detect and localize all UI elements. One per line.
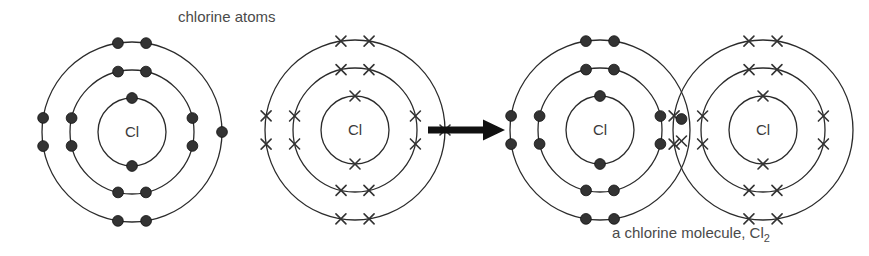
molecule-atom-right: Cl [669,36,853,224]
atom-right: Cl [261,36,450,224]
molecule-caption: a chlorine molecule, Cl2 [612,224,770,244]
nucleus-symbol: Cl [593,121,607,138]
electron-shell3-unpaired [217,127,228,138]
electron-shell2-6 [744,185,754,195]
electron-shell3-4 [581,213,592,224]
nucleus-symbol: Cl [125,123,139,140]
electron-shell2-1 [113,66,124,77]
electron-shell2-2 [609,64,620,75]
reaction-arrow [428,120,505,141]
electron-shell2-8 [698,111,708,121]
electron-shell2-6 [113,187,124,198]
electron-shell3-5 [38,141,49,152]
electron-shell3-1 [581,36,592,47]
molecule-caption-text: a chlorine molecule, Cl [612,224,764,241]
electron-shell2-5 [364,185,374,195]
electron-shell2-2 [141,66,152,77]
atom-left: Cl [38,38,228,227]
electron-shell3-3 [609,213,620,224]
electron-shell3-1 [113,38,124,49]
electron-shell3-6 [38,113,49,124]
electron-shell2-3 [655,111,666,122]
electron-shell2-2 [772,65,782,75]
electron-shell2-6 [581,185,592,196]
electron-shell3-2 [609,36,620,47]
electron-shell2-6 [336,185,346,195]
electron-shell1-2 [595,159,606,170]
electron-shell2-1 [336,65,346,75]
electron-shell2-8 [534,111,545,122]
electron-shell2-4 [187,141,198,152]
chlorine-molecule: ClCl [506,36,853,225]
electron-shell1-1 [595,91,606,102]
shared-electron-dot [676,114,687,125]
electron-shell2-3 [818,111,828,121]
electron-shell3-4 [113,215,124,226]
electron-shell2-8 [66,113,77,124]
electron-shell2-5 [609,185,620,196]
electron-shell2-1 [744,65,754,75]
electron-shell2-7 [290,139,300,149]
electron-shell3-3 [141,215,152,226]
molecule-atom-left: Cl [506,36,690,225]
electron-shell3-5 [506,139,517,150]
diagram-title: chlorine atoms [178,8,276,25]
electron-shell2-2 [364,65,374,75]
electron-shell2-7 [698,139,708,149]
nucleus-symbol: Cl [348,121,362,138]
molecule-caption-subscript: 2 [764,232,770,244]
electron-shell2-1 [581,64,592,75]
electron-shell3-2 [141,38,152,49]
electron-shell2-8 [290,111,300,121]
electron-shell2-3 [187,113,198,124]
electron-shell2-7 [534,139,545,150]
chlorine-bonding-svg: ClClClCl [0,0,869,256]
electron-shell2-5 [772,185,782,195]
electron-shell2-4 [655,139,666,150]
electron-shell2-4 [818,139,828,149]
electron-shell2-5 [141,187,152,198]
electron-shell1-2 [127,161,138,172]
electron-shell3-6 [506,111,517,122]
electron-shell2-3 [410,111,420,121]
electron-shell2-4 [410,139,420,149]
arrow-shape [428,120,505,141]
nucleus-symbol: Cl [756,121,770,138]
diagram-canvas: chlorine atoms ClClClCl a chlorine molec… [0,0,869,256]
electron-shell2-7 [66,141,77,152]
electron-shell1-1 [127,93,138,104]
